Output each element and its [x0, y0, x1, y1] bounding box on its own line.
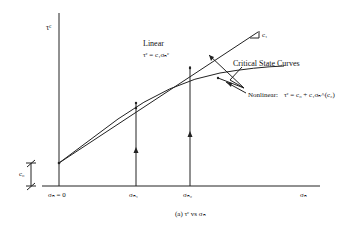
linear-label: Linear	[143, 40, 164, 48]
nonlinear-equation: τᶜ = c₀ + c₁σₙ^(c₂)	[284, 92, 335, 99]
critical-state-diagram: τᶜ c₀ c₁ Linear τᶜ = c₁σₙᶜ Critical Stat…	[0, 0, 343, 237]
slope-label: c₁	[262, 32, 268, 39]
tick-label-sigma-n1: σₙ₁	[129, 192, 138, 199]
diagram-graphics	[0, 0, 343, 237]
critical-state-label: Critical State Curves	[233, 60, 300, 68]
origin-label: σₙ = 0	[48, 192, 66, 199]
arrow-up-icon	[134, 147, 139, 153]
y-axis-label: τᶜ	[46, 24, 51, 32]
linear-equation: τᶜ = c₁σₙᶜ	[143, 52, 169, 59]
intercept-label: c₀	[19, 171, 25, 178]
arrow-up-icon	[188, 131, 193, 137]
x-axis-label: σₙ	[300, 192, 307, 199]
figure-caption: (a) τᶜ vs σₙ	[175, 211, 206, 218]
nonlinear-label: Nonlinear:	[248, 92, 278, 99]
intercept-point	[58, 162, 61, 165]
nonlinear-curve	[59, 66, 284, 163]
tick-label-sigma-n2: σₙ₂	[183, 192, 192, 199]
